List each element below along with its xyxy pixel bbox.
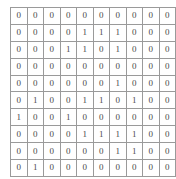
- matrix-cell: 0: [60, 8, 77, 25]
- matrix-cell: 0: [126, 24, 143, 41]
- matrix-cell: 0: [44, 58, 61, 75]
- matrix-cell: 0: [159, 92, 172, 109]
- matrix-cell: 0: [143, 160, 160, 177]
- matrix-cell: 0: [44, 8, 61, 25]
- matrix-cell: 0: [110, 109, 127, 126]
- matrix-cell: 0: [27, 8, 44, 25]
- table-row: 0 0 0 0 0 0 0 0 0 0: [11, 58, 173, 75]
- matrix-cell: 0: [60, 24, 77, 41]
- table-row: 0 1 0 0 1 1 0 1 0 0: [11, 92, 173, 109]
- matrix-cell: 0: [110, 160, 127, 177]
- matrix-cell: 0: [44, 92, 61, 109]
- matrix-cell: 1: [126, 92, 143, 109]
- matrix-cell: 0: [159, 58, 172, 75]
- matrix-cell: 0: [93, 109, 110, 126]
- binary-matrix-container: 0 0 0 0 0 0 0 0 0 0 0 0 0 0 1 1 1 0 0: [10, 7, 165, 166]
- matrix-cell: 0: [143, 143, 160, 160]
- matrix-cell: 0: [126, 58, 143, 75]
- matrix-cell: 0: [143, 75, 160, 92]
- matrix-cell: 0: [93, 75, 110, 92]
- matrix-cell: 1: [110, 24, 127, 41]
- matrix-cell: 0: [126, 109, 143, 126]
- matrix-cell: 0: [11, 58, 28, 75]
- matrix-cell: 0: [126, 160, 143, 177]
- matrix-cell: 0: [159, 143, 172, 160]
- matrix-cell: 0: [93, 41, 110, 58]
- matrix-cell: 0: [143, 58, 160, 75]
- matrix-cell: 0: [11, 75, 28, 92]
- matrix-cell: 0: [126, 75, 143, 92]
- matrix-cell: 0: [126, 41, 143, 58]
- matrix-cell: 1: [77, 126, 94, 143]
- matrix-cell: 1: [93, 24, 110, 41]
- matrix-cell: 0: [60, 160, 77, 177]
- matrix-cell: 1: [77, 92, 94, 109]
- matrix-cell: 0: [27, 58, 44, 75]
- matrix-cell: 1: [126, 143, 143, 160]
- table-row: 0 0 0 0 0 0 1 0 0 0: [11, 75, 173, 92]
- matrix-cell: 0: [27, 41, 44, 58]
- matrix-cell: 0: [143, 109, 160, 126]
- matrix-cell: 1: [93, 92, 110, 109]
- table-row: 0 0 0 0 0 0 0 0 0 0: [11, 8, 173, 25]
- matrix-cell: 0: [93, 58, 110, 75]
- matrix-cell: 1: [110, 143, 127, 160]
- matrix-cell: 0: [77, 58, 94, 75]
- matrix-cell: 0: [93, 160, 110, 177]
- matrix-cell: 1: [110, 126, 127, 143]
- matrix-cell: 0: [110, 92, 127, 109]
- matrix-cell: 0: [159, 8, 172, 25]
- matrix-cell: 0: [11, 24, 28, 41]
- matrix-cell: 0: [11, 160, 28, 177]
- matrix-cell: 0: [27, 75, 44, 92]
- matrix-cell: 0: [60, 143, 77, 160]
- matrix-cell: 0: [77, 160, 94, 177]
- binary-matrix-body: 0 0 0 0 0 0 0 0 0 0 0 0 0 0 1 1 1 0 0: [11, 8, 173, 177]
- table-row: 1 0 0 1 0 0 0 0 0 0: [11, 109, 173, 126]
- matrix-cell: 1: [77, 41, 94, 58]
- matrix-cell: 0: [60, 92, 77, 109]
- matrix-cell: 0: [159, 75, 172, 92]
- table-row: 0 0 0 1 1 0 1 0 0 0: [11, 41, 173, 58]
- matrix-cell: 0: [27, 109, 44, 126]
- matrix-cell: 0: [11, 8, 28, 25]
- table-row: 0 1 0 0 0 0 0 0 0 0: [11, 160, 173, 177]
- matrix-cell: 0: [44, 143, 61, 160]
- matrix-cell: 0: [60, 75, 77, 92]
- matrix-cell: 0: [77, 143, 94, 160]
- matrix-cell: 0: [159, 24, 172, 41]
- binary-matrix-table: 0 0 0 0 0 0 0 0 0 0 0 0 0 0 1 1 1 0 0: [10, 7, 172, 177]
- matrix-cell: 0: [143, 126, 160, 143]
- matrix-cell: 0: [11, 92, 28, 109]
- matrix-cell: 0: [44, 160, 61, 177]
- matrix-cell: 0: [44, 41, 61, 58]
- matrix-cell: 1: [27, 160, 44, 177]
- matrix-cell: 0: [110, 8, 127, 25]
- matrix-cell: 0: [27, 143, 44, 160]
- table-row: 0 0 0 0 1 1 1 1 0 0: [11, 126, 173, 143]
- matrix-cell: 0: [159, 109, 172, 126]
- matrix-cell: 0: [44, 109, 61, 126]
- matrix-cell: 0: [27, 126, 44, 143]
- matrix-cell: 0: [11, 41, 28, 58]
- matrix-cell: 1: [110, 75, 127, 92]
- matrix-cell: 0: [126, 8, 143, 25]
- matrix-cell: 0: [143, 41, 160, 58]
- matrix-cell: 0: [159, 126, 172, 143]
- table-row: 0 0 0 0 0 0 1 1 0 0: [11, 143, 173, 160]
- matrix-cell: 0: [27, 24, 44, 41]
- matrix-cell: 0: [77, 8, 94, 25]
- matrix-cell: 1: [60, 109, 77, 126]
- matrix-cell: 0: [60, 58, 77, 75]
- matrix-cell: 0: [110, 58, 127, 75]
- matrix-cell: 0: [143, 92, 160, 109]
- matrix-cell: 1: [110, 41, 127, 58]
- matrix-cell: 0: [93, 8, 110, 25]
- matrix-cell: 0: [11, 126, 28, 143]
- matrix-cell: 0: [77, 109, 94, 126]
- matrix-cell: 0: [159, 41, 172, 58]
- matrix-cell: 1: [60, 41, 77, 58]
- matrix-cell: 1: [11, 109, 28, 126]
- matrix-cell: 0: [77, 75, 94, 92]
- matrix-cell: 1: [77, 24, 94, 41]
